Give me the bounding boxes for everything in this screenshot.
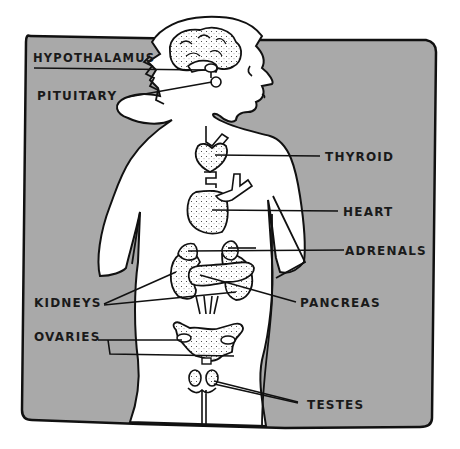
- label-heart: HEART: [343, 205, 393, 219]
- hypothalamus-organ: [205, 64, 217, 72]
- label-testes: TESTES: [307, 398, 364, 412]
- pituitary-organ: [211, 77, 221, 87]
- endocrine-diagram: [0, 0, 460, 449]
- label-pancreas: PANCREAS: [300, 296, 381, 310]
- testis-right-organ: [206, 370, 218, 386]
- testis-left-organ: [189, 370, 201, 386]
- ovary-right-organ: [221, 336, 235, 344]
- label-hypothalamus: HYPOTHALAMUS: [33, 51, 155, 65]
- cervix: [202, 358, 211, 364]
- label-pituitary: PITUITARY: [37, 89, 117, 103]
- label-kidneys: KIDNEYS: [34, 296, 102, 310]
- label-ovaries: OVARIES: [34, 330, 101, 344]
- label-adrenals: ADRENALS: [345, 244, 427, 258]
- label-thyroid: THYROID: [325, 150, 394, 164]
